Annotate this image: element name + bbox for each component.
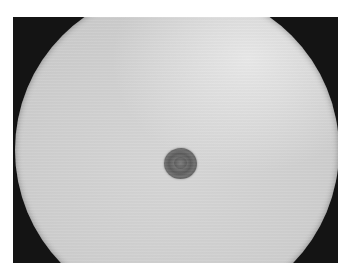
cell (164, 148, 197, 179)
image-frame (13, 17, 338, 263)
cell-nucleus (174, 157, 187, 169)
microscope-field (15, 17, 338, 263)
